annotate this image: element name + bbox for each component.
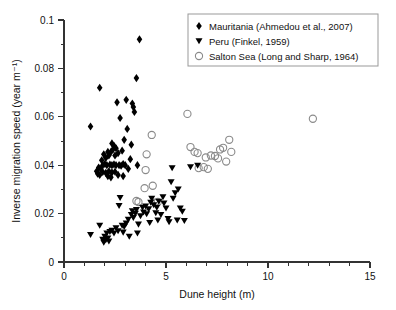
data-point-circle [223, 158, 230, 165]
data-point-diamond [124, 125, 130, 133]
axis-titles: Dune height (m)Inverse migration speed (… [10, 59, 255, 300]
series-open-circle [133, 110, 317, 206]
legend-label: Salton Sea (Long and Sharp, 1964) [209, 51, 358, 62]
data-point-triangle [170, 196, 177, 202]
data-points [87, 35, 316, 246]
y-tick-label: 0 [48, 257, 54, 268]
data-point-triangle [117, 195, 124, 201]
data-point-triangle [187, 164, 194, 170]
data-point-triangle [174, 218, 181, 224]
y-axis-title: Inverse migration speed (year m⁻¹) [10, 59, 22, 223]
data-point-diamond [121, 136, 127, 144]
x-tick-label: 5 [163, 271, 169, 282]
series-filled-diamond [88, 35, 143, 181]
data-point-diamond [129, 141, 135, 149]
data-point-diamond [123, 96, 129, 104]
data-point-triangle [179, 209, 186, 215]
data-point-triangle [134, 231, 141, 237]
data-point-diamond [128, 155, 134, 163]
scatter-plot-figure: 05101500.020.040.060.080.1 Dune height (… [0, 0, 396, 310]
data-point-diamond [114, 98, 120, 106]
data-point-circle [143, 151, 150, 158]
x-axis-title: Dune height (m) [179, 288, 254, 300]
series-filled-triangle-down [87, 163, 201, 246]
y-tick-label: 0.04 [35, 160, 55, 171]
data-point-circle [142, 166, 149, 173]
legend-label: Peru (Finkel, 1959) [209, 36, 290, 47]
data-point-circle [204, 165, 211, 172]
data-point-triangle [146, 220, 153, 226]
data-point-triangle [181, 218, 188, 224]
y-tick-label: 0.06 [35, 111, 55, 122]
legend-entry[interactable]: Mauritania (Ahmedou et al., 2007) [196, 21, 352, 32]
y-tick-label: 0.1 [40, 15, 54, 26]
data-point-triangle [157, 212, 164, 218]
data-point-circle [141, 185, 148, 192]
data-point-triangle [87, 232, 94, 238]
legend-entry[interactable]: Salton Sea (Long and Sharp, 1964) [195, 51, 358, 62]
data-point-triangle [96, 223, 103, 229]
data-point-circle [228, 148, 235, 155]
data-point-circle [309, 115, 316, 122]
data-point-triangle [154, 218, 161, 224]
chart-canvas: 05101500.020.040.060.080.1 Dune height (… [0, 0, 396, 310]
data-point-diamond [135, 161, 141, 169]
data-point-diamond [134, 74, 140, 82]
x-tick-label: 15 [364, 271, 376, 282]
x-tick-label: 0 [61, 271, 67, 282]
data-point-diamond [88, 122, 94, 130]
data-point-diamond [120, 172, 126, 180]
data-point-circle [187, 143, 194, 150]
data-point-circle [200, 164, 207, 171]
x-tick-label: 10 [262, 271, 274, 282]
data-point-triangle [166, 219, 173, 225]
y-tick-label: 0.02 [35, 208, 55, 219]
data-point-triangle [153, 205, 160, 211]
data-point-triangle [120, 230, 127, 236]
data-point-circle [149, 182, 156, 189]
data-point-triangle [163, 205, 170, 211]
data-point-triangle [169, 165, 176, 171]
data-point-triangle [126, 234, 133, 240]
data-point-triangle [116, 203, 123, 209]
data-point-circle [226, 136, 233, 143]
data-point-triangle [168, 179, 175, 185]
data-point-circle [148, 131, 155, 138]
data-point-triangle [110, 231, 117, 237]
legend-entry[interactable]: Peru (Finkel, 1959) [196, 36, 290, 47]
data-point-triangle [135, 222, 142, 228]
data-point-diamond [97, 84, 103, 92]
legend-label: Mauritania (Ahmedou et al., 2007) [209, 21, 353, 32]
y-tick-label: 0.08 [35, 63, 55, 74]
data-point-diamond [137, 35, 143, 43]
data-point-circle [184, 110, 191, 117]
legend: Mauritania (Ahmedou et al., 2007)Peru (F… [188, 14, 378, 66]
data-point-diamond [117, 114, 123, 122]
